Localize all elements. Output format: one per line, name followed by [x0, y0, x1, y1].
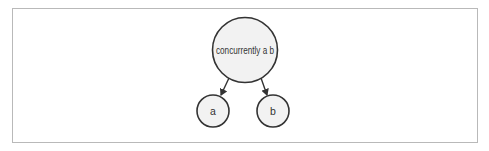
- node-b-label: b: [270, 105, 276, 117]
- node-b: b: [257, 95, 289, 127]
- edge-root-to-a: [221, 78, 229, 95]
- tree-diagram: concurrently a b a b: [0, 0, 489, 151]
- edge-root-to-b: [261, 78, 267, 95]
- node-a-label: a: [210, 105, 216, 117]
- node-a: a: [197, 95, 229, 127]
- node-root: concurrently a b: [213, 18, 278, 83]
- node-root-label: concurrently a b: [216, 44, 274, 56]
